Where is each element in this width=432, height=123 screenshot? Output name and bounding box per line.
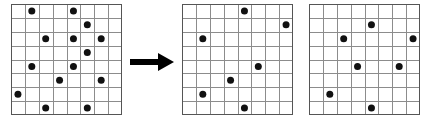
grid-dot [255,63,262,70]
grid-background [182,4,293,115]
grid-dot [241,7,248,14]
right-arrow-svg [128,49,176,75]
input-grid-svg [11,4,122,115]
grid-dot [28,63,35,70]
right-arrow-icon [128,49,176,75]
arrow-shape [130,53,174,71]
grid-dot [396,63,403,70]
grid-dot [84,21,91,28]
grid-dot [368,21,375,28]
grid-dot [227,77,234,84]
grid-background [309,4,420,115]
input-grid [11,4,122,115]
output-grid-a [182,4,293,115]
grid-dot [70,35,77,42]
grid-dot [340,35,347,42]
grid-dot [199,91,206,98]
grid-dot [199,35,206,42]
grid-dot [354,63,361,70]
grid-dot [410,35,417,42]
grid-dot [326,91,333,98]
grid-dot [70,63,77,70]
grid-dot [42,35,49,42]
grid-dot [28,7,35,14]
grid-dot [84,49,91,56]
grid-dot [14,91,21,98]
grid-dot [283,21,290,28]
output-grid-b [309,4,420,115]
grid-dot [70,7,77,14]
grid-dot [241,105,248,112]
grid-dot [98,35,105,42]
grid-dot [84,105,91,112]
grid-dot [368,105,375,112]
figure-root [0,0,432,123]
grid-background [11,4,122,115]
grid-dot [98,77,105,84]
output-grid-a-svg [182,4,293,115]
grid-dot [42,105,49,112]
output-grid-b-svg [309,4,420,115]
grid-dot [56,77,63,84]
